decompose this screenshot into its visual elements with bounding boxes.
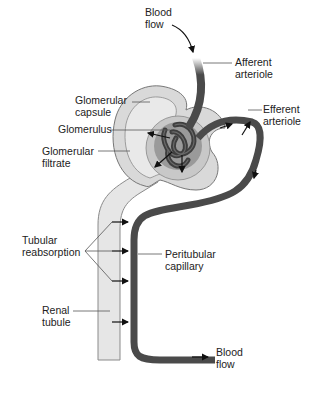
afferent-arteriole xyxy=(190,58,201,125)
nephron-diagram: Blood flow Afferent arteriole Efferent a… xyxy=(0,0,319,395)
label-blood-flow-out: Blood flow xyxy=(216,346,246,370)
label-efferent-arteriole: Efferent arteriole xyxy=(263,103,303,127)
label-renal-tubule: Renal tubule xyxy=(42,304,72,328)
label-afferent-arteriole: Afferent arteriole xyxy=(235,56,275,80)
label-tubular-reabsorption: Tubular reabsorption xyxy=(22,234,81,258)
label-glomerulus: Glomerulus xyxy=(58,123,112,135)
blood-flow-in-arrow xyxy=(172,25,193,52)
label-blood-flow-in: Blood flow xyxy=(145,6,175,30)
label-glomerular-filtrate: Glomerular filtrate xyxy=(42,145,97,169)
renal-tubule xyxy=(98,168,158,360)
label-peritubular-capillary: Peritubular capillary xyxy=(165,248,219,272)
